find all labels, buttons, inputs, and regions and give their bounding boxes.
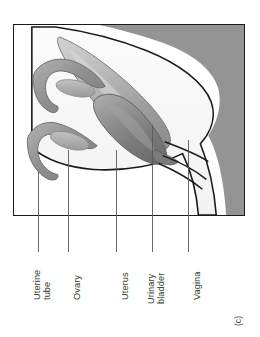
label-urinary-bladder-line-1: Urinary <box>146 273 156 304</box>
label-urinary-bladder-line-2: bladder <box>156 273 166 304</box>
label-uterine-tube-line-2: tube <box>42 270 52 300</box>
label-ovary-line-1: Ovary <box>72 275 82 300</box>
label-uterus-line-1: Uterus <box>120 272 130 300</box>
label-uterine-tube: Uterine tube <box>32 270 53 300</box>
label-uterine-tube-line-1: Uterine <box>32 270 42 300</box>
label-uterus: Uterus <box>120 272 130 300</box>
illustration-frame <box>13 24 245 216</box>
label-ovary: Ovary <box>72 275 82 300</box>
label-vagina: Vagina <box>192 271 202 300</box>
anatomy-illustration <box>14 25 244 215</box>
figure-panel-c: Uterine tube Ovary Uterus Urinary bladde… <box>0 0 260 337</box>
label-urinary-bladder: Urinary bladder <box>146 273 167 304</box>
label-vagina-line-1: Vagina <box>192 271 202 300</box>
panel-letter: (c) <box>233 316 243 326</box>
